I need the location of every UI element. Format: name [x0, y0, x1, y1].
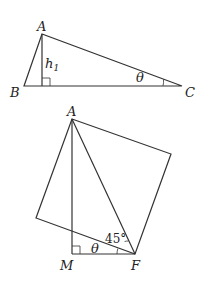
angle-theta-arc-2	[117, 249, 118, 254]
vertex-b-label: B	[9, 85, 20, 100]
vertex-c-label: C	[185, 85, 195, 100]
angle-theta-label-2: θ	[91, 241, 99, 256]
right-angle-marker-m	[72, 246, 80, 254]
square-figure	[36, 119, 171, 254]
vertex-f-label: F	[130, 258, 141, 273]
vertex-m-label: M	[59, 258, 74, 273]
angle-theta-label: θ	[136, 70, 144, 85]
angle-theta-arc	[163, 79, 164, 86]
angle-45-label: 45°	[105, 232, 126, 246]
altitude-label: h1	[45, 56, 59, 73]
vertex-a-label: A	[36, 19, 46, 34]
geometry-diagram: A B C h1 θ A M F θ 45°	[0, 0, 207, 281]
right-angle-marker	[42, 78, 50, 86]
vertex-a2-label: A	[66, 104, 76, 119]
